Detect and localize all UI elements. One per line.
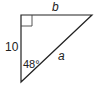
right-angle-marker	[21, 15, 32, 26]
angle-label: 48°	[23, 58, 40, 70]
triangle-diagram: b 10 a 48°	[0, 0, 94, 89]
hypotenuse-a-label: a	[58, 49, 65, 63]
side-b-label: b	[52, 0, 59, 14]
side-length-label: 10	[5, 40, 19, 54]
